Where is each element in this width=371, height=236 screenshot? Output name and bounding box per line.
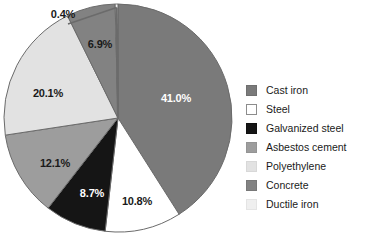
legend-item[interactable]: Galvanized steel (246, 119, 371, 138)
legend-item[interactable]: Steel (246, 100, 371, 119)
pie-chart-figure: 41.0%10.8%8.7%12.1%20.1%6.9%0.4% Cast ir… (0, 0, 371, 236)
legend-item-label: Cast iron (266, 85, 308, 96)
legend-swatch-icon (246, 123, 257, 134)
legend-swatch-icon (246, 104, 257, 115)
legend-item-label: Galvanized steel (266, 123, 344, 134)
legend-item-label: Concrete (266, 180, 309, 191)
leader-line (117, 7, 118, 118)
legend-item[interactable]: Polyethylene (246, 157, 371, 176)
legend-item-label: Asbestos cement (266, 142, 347, 153)
legend-swatch-icon (246, 199, 257, 210)
legend-swatch-icon (246, 85, 257, 96)
legend-swatch-icon (246, 161, 257, 172)
legend-item[interactable]: Cast iron (246, 81, 371, 100)
legend-item[interactable]: Ductile iron (246, 195, 371, 214)
pie-plot-area: 41.0%10.8%8.7%12.1%20.1%6.9%0.4% (0, 0, 236, 236)
legend-item-label: Steel (266, 104, 290, 115)
legend-item-label: Ductile iron (266, 199, 319, 210)
legend-swatch-icon (246, 142, 257, 153)
legend-item[interactable]: Concrete (246, 176, 371, 195)
chart-legend: Cast ironSteelGalvanized steelAsbestos c… (246, 81, 371, 214)
legend-item[interactable]: Asbestos cement (246, 138, 371, 157)
legend-swatch-icon (246, 180, 257, 191)
legend-item-label: Polyethylene (266, 161, 326, 172)
pie-svg (0, 0, 236, 236)
